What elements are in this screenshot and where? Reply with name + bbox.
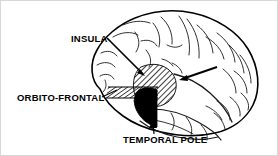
- figure-canvas: INSULA ORBITO-FRONTAL TEMPORAL POLE: [0, 0, 278, 156]
- brain-lateral-view-illustration: [1, 1, 278, 156]
- label-insula: INSULA: [71, 34, 108, 44]
- label-temporal-pole: TEMPORAL POLE: [123, 135, 207, 145]
- label-orbito-frontal: ORBITO-FRONTAL: [17, 93, 104, 103]
- brain-outline: [92, 11, 258, 136]
